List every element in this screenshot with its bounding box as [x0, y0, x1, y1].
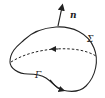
normal-label: n	[70, 11, 77, 20]
dashed-curve	[11, 49, 96, 62]
boundary-arrow	[50, 80, 62, 90]
surface-label: Σ	[87, 35, 93, 44]
surface-diagram	[0, 0, 105, 98]
normal-vector-arrow	[58, 7, 62, 26]
surface-outline	[10, 27, 96, 91]
boundary-label: Γ	[35, 71, 41, 80]
